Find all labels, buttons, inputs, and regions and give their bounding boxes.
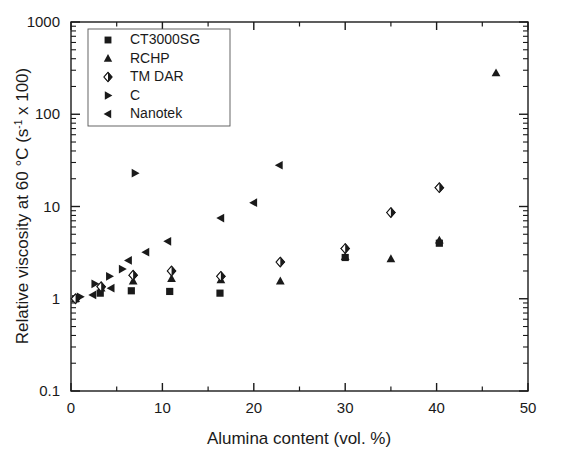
scatter-plot-svg: 01020304050 0.11101001000 CT3000SGRCHPTM… xyxy=(0,0,565,463)
legend-label-ct3000sg: CT3000SG xyxy=(130,31,200,47)
legend: CT3000SGRCHPTM DARCNanotek xyxy=(88,29,230,126)
marker-square xyxy=(216,290,223,297)
marker-square xyxy=(105,37,112,44)
y-tick-label: 1 xyxy=(52,290,60,307)
x-tick-label: 10 xyxy=(154,399,171,416)
x-tick-label: 50 xyxy=(520,399,537,416)
marker-square xyxy=(166,288,173,295)
legend-label-rchp: RCHP xyxy=(130,50,170,66)
legend-label-tm-dar: TM DAR xyxy=(130,68,184,84)
legend-label-c: C xyxy=(130,87,140,103)
x-tick-label: 40 xyxy=(428,399,445,416)
svg-text:Relative viscosity at 60 °C (s: Relative viscosity at 60 °C (s-1 x 100) xyxy=(13,68,32,344)
x-axis-title: Alumina content (vol. %) xyxy=(207,429,391,448)
x-tick-label: 20 xyxy=(245,399,262,416)
y-tick-label: 100 xyxy=(35,105,60,122)
x-tick-label: 30 xyxy=(337,399,354,416)
y-tick-label: 0.1 xyxy=(39,382,60,399)
y-axis-title: Relative viscosity at 60 °C (s-1 x 100) xyxy=(13,68,32,344)
y-tick-label: 1000 xyxy=(27,13,60,30)
legend-label-nanotek: Nanotek xyxy=(130,105,183,121)
chart-figure: 01020304050 0.11101001000 CT3000SGRCHPTM… xyxy=(0,0,565,463)
chart-background xyxy=(0,0,565,463)
y-tick-label: 10 xyxy=(43,198,60,215)
marker-square xyxy=(128,287,135,294)
x-tick-label: 0 xyxy=(67,399,75,416)
